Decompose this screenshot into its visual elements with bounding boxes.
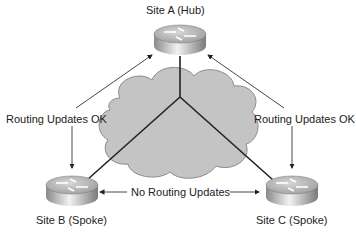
bottom-edge-label: No Routing Updates: [131, 186, 230, 198]
wan-cloud: [99, 67, 258, 178]
right-edge-label: Routing Updates OK: [254, 113, 355, 125]
site-b-label: Site B (Spoke): [36, 214, 107, 226]
hub-label: Site A (Hub): [146, 4, 205, 16]
site-c-label: Site C (Spoke): [256, 214, 328, 226]
router-icon-site-b[interactable]: [46, 176, 98, 206]
router-icon-site-c[interactable]: [266, 176, 318, 206]
left-edge-label: Routing Updates OK: [6, 113, 107, 125]
router-icon-hub[interactable]: [154, 25, 206, 55]
